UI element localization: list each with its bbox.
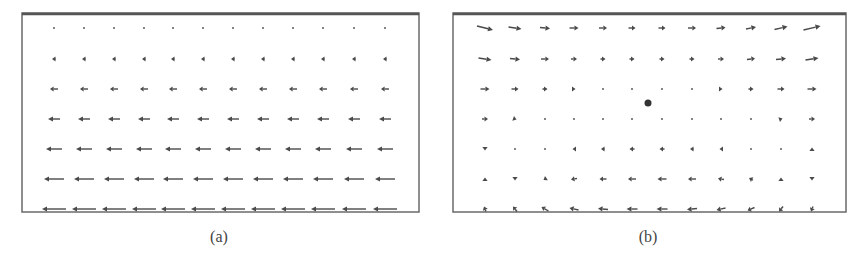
vector-arrow-icon (690, 146, 694, 151)
vector-arrow-icon (628, 176, 636, 181)
vector-arrow-icon (747, 56, 755, 61)
vector-dot-icon (780, 148, 782, 150)
vector-arrow-icon (806, 56, 819, 61)
vector-arrow-icon (510, 56, 520, 61)
vector-arrow-icon (540, 25, 550, 30)
vector-arrow-icon (690, 56, 695, 61)
vector-arrow-icon (809, 116, 815, 121)
vector-arrow-icon (483, 207, 488, 212)
vector-arrow-icon (477, 26, 493, 31)
vector-arrow-icon (544, 176, 548, 180)
vector-arrow-icon (660, 146, 665, 151)
vector-arrow-icon (512, 116, 516, 121)
vector-arrow-icon (778, 86, 785, 91)
vector-dot-icon (691, 118, 693, 120)
vector-dot-icon (720, 118, 722, 120)
vector-arrow-icon (720, 146, 724, 151)
vector-arrow-icon (542, 207, 549, 212)
vector-arrow-icon (629, 25, 636, 30)
vector-arrow-icon (572, 86, 576, 91)
vector-arrow-icon (775, 25, 788, 30)
vector-dot-icon (661, 118, 663, 120)
vector-arrow-icon (541, 56, 549, 61)
vector-arrow-icon (479, 57, 492, 62)
vector-dot-icon (544, 148, 546, 150)
vector-arrow-icon (746, 25, 756, 30)
vector-arrow-icon (571, 176, 577, 181)
vector-arrow-icon (630, 56, 635, 61)
vector-arrow-icon (809, 177, 814, 181)
vector-dot-icon (661, 88, 663, 90)
vector-arrow-icon (717, 207, 726, 212)
vector-dot-icon (544, 118, 546, 120)
vector-dot-icon (691, 88, 693, 90)
vector-arrow-icon (748, 207, 755, 212)
vector-arrow-icon (749, 86, 754, 91)
vector-arrow-icon (543, 86, 548, 91)
vector-arrow-icon (512, 177, 517, 181)
vector-arrow-icon (513, 207, 517, 212)
vector-arrow-icon (688, 25, 696, 30)
vector-dot-icon (750, 118, 752, 120)
vector-arrow-icon (778, 178, 783, 182)
vector-dot-icon (602, 118, 604, 120)
vector-arrow-icon (509, 26, 522, 31)
vector-arrow-icon (717, 25, 726, 30)
vector-arrow-icon (688, 176, 696, 181)
vector-arrow-icon (570, 206, 579, 211)
vector-arrow-icon (719, 86, 723, 91)
vector-arrow-icon (687, 206, 697, 211)
vector-arrow-icon (482, 147, 487, 151)
vector-dot-icon (514, 148, 516, 150)
vector-arrow-icon (718, 177, 724, 182)
vector-field-b (0, 0, 859, 263)
vector-dot-icon (631, 88, 633, 90)
vector-arrow-icon (718, 56, 724, 61)
vector-arrow-icon (482, 116, 488, 121)
vector-arrow-icon (809, 148, 814, 152)
vector-arrow-icon (482, 178, 487, 182)
panel-b: (b) (0, 0, 859, 263)
vector-arrow-icon (512, 86, 519, 91)
vector-arrow-icon (779, 207, 783, 212)
vector-arrow-icon (749, 177, 753, 182)
vector-dot-icon (750, 148, 752, 150)
vector-arrow-icon (778, 117, 782, 122)
vector-arrow-icon (600, 176, 607, 181)
vector-arrow-icon (481, 86, 490, 91)
vector-arrow-icon (627, 206, 638, 211)
vector-arrow-icon (658, 176, 667, 181)
vector-arrow-icon (810, 207, 815, 212)
vector-arrow-icon (601, 56, 606, 61)
vector-arrow-icon (660, 56, 665, 61)
vector-arrow-icon (601, 146, 605, 151)
vector-arrow-icon (599, 25, 607, 30)
caption-b: (b) (618, 228, 678, 246)
vector-arrow-icon (804, 25, 821, 30)
vector-dot-icon (602, 88, 604, 90)
vector-dot-icon (573, 118, 575, 120)
vector-arrow-icon (808, 86, 817, 91)
vector-arrow-icon (570, 25, 579, 30)
vector-arrow-icon (776, 56, 786, 61)
vector-arrow-icon (657, 206, 668, 211)
vector-arrow-icon (630, 146, 635, 151)
vector-arrow-icon (598, 206, 608, 211)
vector-dot-icon (631, 118, 633, 120)
vector-arrow-icon (573, 146, 577, 151)
plot-frame (453, 13, 846, 212)
vector-arrow-icon (659, 25, 666, 30)
center-point-icon (645, 100, 652, 107)
vector-arrow-icon (571, 56, 577, 61)
